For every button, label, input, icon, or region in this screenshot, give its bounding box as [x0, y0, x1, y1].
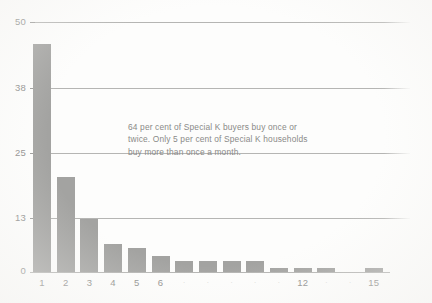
xtick-label-10: ·	[244, 277, 266, 288]
gridline-38	[32, 88, 410, 89]
bar-10	[246, 261, 264, 272]
ytick-label-0: 0	[4, 266, 26, 276]
xtick-label-7: ·	[173, 277, 195, 288]
xtick-label-15: 15	[363, 277, 385, 288]
ytick-label-25: 25	[4, 148, 26, 158]
bar-chart-plot-area: 50 38 25 13 0 123456·····12··15 64 per c…	[0, 0, 432, 303]
insight-callout-text: 64 per cent of Special K buyers buy once…	[128, 121, 318, 158]
gridline-50	[32, 22, 410, 23]
xtick-label-4: 4	[102, 277, 124, 288]
xtick-label-13: ·	[315, 277, 337, 288]
xtick-label-6: 6	[150, 277, 172, 288]
ytick-mark-50	[30, 22, 35, 23]
bar-11	[270, 268, 288, 273]
bar-1	[33, 44, 51, 272]
bar-5	[128, 248, 146, 272]
chart-page: 50 38 25 13 0 123456·····12··15 64 per c…	[0, 0, 432, 303]
xtick-label-8: ·	[197, 277, 219, 288]
bar-2	[57, 177, 75, 272]
xtick-label-5: 5	[126, 277, 148, 288]
bar-15	[365, 268, 383, 272]
xtick-label-12: 12	[292, 277, 314, 288]
bar-7	[175, 261, 193, 272]
bar-3	[80, 219, 98, 272]
bar-13	[317, 268, 335, 273]
bar-9	[223, 261, 241, 272]
xtick-label-9: ·	[221, 277, 243, 288]
xtick-label-3: 3	[78, 277, 100, 288]
bar-6	[152, 256, 170, 272]
xtick-label-14: ·	[339, 277, 361, 288]
xtick-label-1: 1	[31, 277, 53, 288]
xtick-label-2: 2	[55, 277, 77, 288]
ytick-label-13: 13	[4, 213, 26, 223]
bar-12	[294, 268, 312, 273]
bar-8	[199, 261, 217, 272]
ytick-label-38: 38	[4, 83, 26, 93]
bar-4	[104, 244, 122, 272]
xtick-label-11: ·	[268, 277, 290, 288]
ytick-label-50: 50	[4, 17, 26, 27]
x-axis-baseline	[30, 272, 390, 273]
